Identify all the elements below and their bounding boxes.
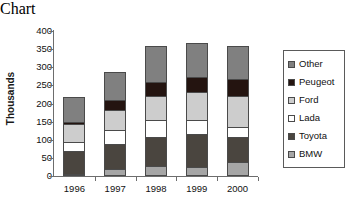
bar-segment-toyota[interactable] — [104, 144, 126, 170]
legend-item-label: BMW — [299, 149, 322, 159]
plot-area — [54, 31, 258, 176]
legend-swatch-icon — [288, 61, 295, 68]
bar-column[interactable] — [104, 72, 126, 176]
bar-segment-bmw[interactable] — [63, 174, 85, 176]
x-axis-tick-mark — [258, 177, 259, 181]
y-axis-title: Thousands — [0, 18, 22, 178]
bar-segment-peugeot[interactable] — [227, 79, 249, 97]
y-axis-tick-mark — [49, 140, 54, 141]
y-axis-tick-label: 200 — [22, 99, 52, 109]
legend-swatch-icon — [288, 97, 295, 104]
legend-item-label: Peugeot — [299, 77, 334, 87]
y-axis-tick-mark — [49, 85, 54, 86]
y-axis-tick-label: 400 — [22, 26, 52, 36]
legend-item-bmw[interactable]: BMW — [288, 145, 341, 163]
legend-item-lada[interactable]: Lada — [288, 109, 341, 127]
bar-segment-bmw[interactable] — [145, 166, 167, 176]
legend-item-ford[interactable]: Ford — [288, 91, 341, 109]
bar-segment-ford[interactable] — [145, 96, 167, 121]
bar-segment-toyota[interactable] — [186, 134, 208, 168]
x-axis-line — [53, 176, 258, 177]
bar-segment-ford[interactable] — [63, 124, 85, 142]
bar-column[interactable] — [145, 46, 167, 176]
x-axis-tick-mark — [217, 177, 218, 181]
y-axis-tick-label: 300 — [22, 63, 52, 73]
legend-item-label: Toyota — [299, 131, 327, 141]
bar-segment-toyota[interactable] — [63, 151, 85, 175]
legend-swatch-icon — [288, 79, 295, 86]
legend-swatch-icon — [288, 151, 295, 158]
bar-segment-peugeot[interactable] — [145, 82, 167, 97]
legend-item-other[interactable]: Other — [288, 55, 341, 73]
bar-column[interactable] — [63, 97, 85, 176]
chart-legend: OtherPeugeotFordLadaToyotaBMW — [283, 50, 345, 168]
y-axis-tick-mark — [49, 104, 54, 105]
bar-segment-lada[interactable] — [145, 120, 167, 138]
x-axis-tick-mark — [136, 177, 137, 181]
y-axis-tick-labels: 050100150200250300350400 — [22, 18, 52, 189]
x-axis-tick-label: 1997 — [92, 184, 138, 194]
legend-item-label: Lada — [299, 113, 320, 123]
legend-item-peugeot[interactable]: Peugeot — [288, 73, 341, 91]
bar-segment-lada[interactable] — [186, 120, 208, 135]
bar-segment-toyota[interactable] — [227, 137, 249, 162]
bar-segment-other[interactable] — [104, 72, 126, 101]
legend-item-label: Ford — [299, 95, 319, 105]
x-axis-tick-mark — [176, 177, 177, 181]
y-axis-tick-label: 0 — [22, 171, 52, 181]
bar-segment-other[interactable] — [186, 43, 208, 78]
bar-column[interactable] — [186, 43, 208, 176]
y-axis-tick-label: 350 — [22, 44, 52, 54]
bar-segment-ford[interactable] — [186, 92, 208, 121]
bar-segment-bmw[interactable] — [186, 167, 208, 176]
y-axis-title-label: Thousands — [6, 71, 17, 124]
legend-swatch-icon — [288, 115, 295, 122]
bar-segment-bmw[interactable] — [104, 169, 126, 176]
y-axis-tick-mark — [49, 158, 54, 159]
x-axis-tick-label: 2000 — [215, 184, 261, 194]
bar-segment-ford[interactable] — [104, 110, 126, 131]
y-axis-tick-label: 50 — [22, 153, 52, 163]
legend-item-label: Other — [299, 59, 323, 69]
bar-segment-other[interactable] — [63, 97, 85, 123]
y-axis-tick-mark — [49, 49, 54, 50]
bar-segment-peugeot[interactable] — [186, 77, 208, 93]
legend-item-toyota[interactable]: Toyota — [288, 127, 341, 145]
bar-segment-bmw[interactable] — [227, 162, 249, 177]
y-axis-tick-label: 250 — [22, 81, 52, 91]
bar-segment-lada[interactable] — [104, 130, 126, 145]
x-axis-tick-label: 1998 — [133, 184, 179, 194]
y-axis-tick-mark — [49, 31, 54, 32]
legend-swatch-icon — [288, 133, 295, 140]
y-axis-tick-mark — [49, 176, 54, 177]
bar-column[interactable] — [227, 46, 249, 176]
y-axis-tick-label: 100 — [22, 135, 52, 145]
bar-segment-ford[interactable] — [227, 96, 249, 129]
bar-segment-toyota[interactable] — [145, 137, 167, 167]
y-axis-tick-mark — [49, 67, 54, 68]
x-axis-tick-mark — [95, 177, 96, 181]
stacked-bar-chart: Thousands 050100150200250300350400 Other… — [0, 18, 350, 209]
y-axis-tick-label: 150 — [22, 117, 52, 127]
x-axis-tick-label: 1996 — [51, 184, 97, 194]
bar-segment-other[interactable] — [145, 46, 167, 83]
bar-segment-other[interactable] — [227, 46, 249, 79]
x-axis-tick-label: 1999 — [174, 184, 220, 194]
y-axis-tick-mark — [49, 122, 54, 123]
